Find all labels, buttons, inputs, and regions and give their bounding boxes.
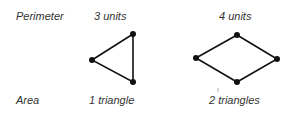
shapes-diagram: [0, 0, 295, 122]
triangle-shape: [92, 34, 133, 82]
rhombus-vertices: [193, 32, 280, 85]
rhombus-shape: [196, 35, 277, 82]
